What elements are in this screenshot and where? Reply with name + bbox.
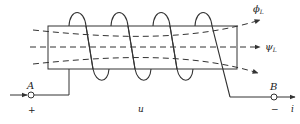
- flux-lines: [30, 20, 260, 73]
- voltage-label: u: [138, 104, 144, 114]
- flux-psi-label: ψL: [265, 41, 277, 53]
- terminal-b[interactable]: [271, 94, 277, 100]
- terminal-a-label: A: [26, 80, 34, 91]
- flux-line-lower: [33, 58, 258, 73]
- inductor-diagram: A B + − u i ϕL ψL: [0, 0, 300, 124]
- lead-a: [10, 69, 69, 95]
- minus-sign: −: [271, 104, 279, 114]
- current-label: i: [291, 104, 294, 114]
- flux-phi-label: ϕL: [253, 3, 264, 15]
- plus-sign: +: [28, 105, 36, 115]
- coil-winding: [69, 13, 230, 98]
- terminal-a[interactable]: [28, 92, 34, 98]
- terminal-b-label: B: [269, 81, 277, 92]
- flux-line-upper: [33, 20, 260, 36]
